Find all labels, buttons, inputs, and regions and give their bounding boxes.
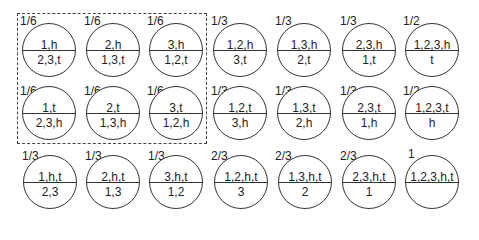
partition-node: 1,t2,3,h bbox=[22, 86, 76, 140]
node-bottom-set: 1,3 bbox=[87, 186, 139, 199]
node-bottom-set: 3,h bbox=[214, 117, 266, 130]
node-top-set: 2,t bbox=[87, 102, 139, 115]
node-bottom-set: 3,t bbox=[214, 54, 266, 67]
partition-node: 1,3,h2,t bbox=[277, 23, 331, 77]
partition-node: 3,t1,2,h bbox=[149, 86, 203, 140]
node-top-set: 1,3,t bbox=[278, 102, 330, 115]
node-top-set: 2,3,h bbox=[343, 39, 395, 52]
node-bottom-set: 2,t bbox=[278, 54, 330, 67]
node-bottom-set: 1,t bbox=[343, 54, 395, 67]
partition-node: 2,h,t1,3 bbox=[86, 155, 140, 209]
node-bottom-set: 2,3 bbox=[24, 186, 76, 199]
node-bottom-set: t bbox=[406, 54, 458, 67]
partition-node: 1,h2,3,t bbox=[22, 23, 76, 77]
node-bottom-set: 1,2,t bbox=[150, 54, 202, 67]
partition-node: 1,2,3,ht bbox=[405, 23, 459, 77]
node-bottom-set: 1,2 bbox=[150, 186, 202, 199]
node-top-set: 1,2,3,h bbox=[406, 39, 458, 52]
partition-node: 1,2,3,th bbox=[405, 86, 459, 140]
node-bottom-set: 2,h bbox=[278, 117, 330, 130]
node-top-set: 1,t bbox=[23, 102, 75, 115]
partition-node: 2,3,t1,h bbox=[342, 86, 396, 140]
node-bottom-set: 3 bbox=[215, 186, 267, 199]
node-top-set: 3,t bbox=[150, 102, 202, 115]
node-bottom-set: 1,3,t bbox=[87, 54, 139, 67]
partition-node: 2,t1,3,h bbox=[86, 86, 140, 140]
node-bottom-set: 2,3,h bbox=[23, 117, 75, 130]
partition-node: 2,3,h1,t bbox=[342, 23, 396, 77]
partition-node: 1,3,h,t2 bbox=[278, 155, 332, 209]
node-top-set: 3,h,t bbox=[150, 171, 202, 184]
node-bottom-set: 1,2,h bbox=[150, 117, 202, 130]
partition-node: 1,2,t3,h bbox=[213, 86, 267, 140]
node-top-set: 2,h,t bbox=[87, 171, 139, 184]
node-bottom-set: 1,h bbox=[343, 117, 395, 130]
node-top-set: 1,2,3,h,t bbox=[406, 171, 458, 184]
node-bottom-set: 2 bbox=[279, 186, 331, 199]
node-top-set: 1,2,t bbox=[214, 102, 266, 115]
node-bottom-set: h bbox=[406, 117, 458, 130]
node-top-set: 3,h bbox=[150, 39, 202, 52]
node-bottom-set: 1 bbox=[343, 186, 395, 199]
partition-node: 2,h1,3,t bbox=[86, 23, 140, 77]
partition-node: 1,2,3,h,t bbox=[405, 155, 459, 209]
node-bottom-set: 1,3,h bbox=[87, 117, 139, 130]
node-top-set: 1,3,h,t bbox=[279, 171, 331, 184]
partition-node: 3,h,t1,2 bbox=[149, 155, 203, 209]
partition-node: 1,2,h3,t bbox=[213, 23, 267, 77]
node-top-set: 1,2,h bbox=[214, 39, 266, 52]
partition-node: 2,3,h,t1 bbox=[342, 155, 396, 209]
node-top-set: 1,2,h,t bbox=[215, 171, 267, 184]
node-top-set: 2,3,t bbox=[343, 102, 395, 115]
partition-node: 1,3,t2,h bbox=[277, 86, 331, 140]
node-top-set: 2,3,h,t bbox=[343, 171, 395, 184]
node-top-set: 1,3,h bbox=[278, 39, 330, 52]
node-top-set: 1,2,3,t bbox=[406, 102, 458, 115]
node-top-set: 1,h,t bbox=[24, 171, 76, 184]
partition-node: 1,2,h,t3 bbox=[214, 155, 268, 209]
node-top-set: 1,h bbox=[23, 39, 75, 52]
node-bottom-set: 2,3,t bbox=[23, 54, 75, 67]
partition-node: 3,h1,2,t bbox=[149, 23, 203, 77]
partition-node: 1,h,t2,3 bbox=[23, 155, 77, 209]
node-top-set: 2,h bbox=[87, 39, 139, 52]
